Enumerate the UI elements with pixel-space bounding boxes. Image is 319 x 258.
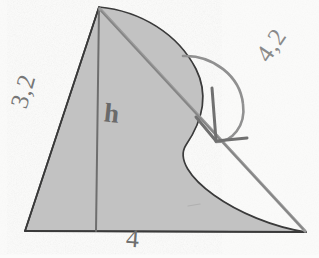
sketch-canvas: 3,2 h 4,2 4 bbox=[0, 0, 319, 258]
base-line bbox=[25, 231, 306, 232]
label-base: 4 bbox=[125, 226, 140, 253]
label-height: h bbox=[103, 99, 121, 127]
